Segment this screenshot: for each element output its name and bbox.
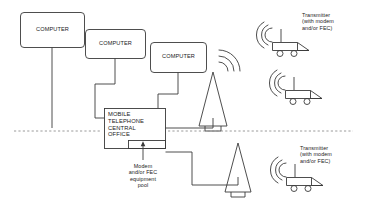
diagram-vector-layer — [0, 0, 367, 220]
truck-1-waves — [256, 22, 272, 48]
feed-lower-tower — [166, 152, 239, 185]
computer-box-1-label: COMPUTER — [20, 26, 85, 33]
truck-2-waves — [269, 70, 285, 96]
truck-3-waves — [270, 157, 286, 183]
wave-arc-3 — [270, 157, 278, 183]
wave-arc-1 — [279, 163, 286, 177]
wave-arc-1 — [265, 28, 272, 42]
central-office-label: MOBILE TELEPHONE CENTRAL OFFICE — [108, 111, 166, 138]
wave-arc-3 — [269, 70, 277, 96]
transmitter-truck-2[interactable] — [269, 70, 322, 105]
lower-tower-group[interactable] — [225, 143, 251, 197]
truck-2-wheel-rear — [304, 99, 310, 105]
tower-feed-lines — [166, 118, 239, 185]
truck-1-wheel-front — [277, 51, 283, 57]
truck-1-body — [273, 43, 310, 51]
computer-box-3-label: COMPUTER — [150, 53, 207, 60]
link-computer-2 — [95, 59, 115, 119]
transmitter-3-label: Transmitter (with modem and/or FEC) — [300, 145, 362, 164]
modem-pool-caption: Modem and/or FEC equipment pool — [113, 163, 173, 189]
diagram-canvas: COMPUTER COMPUTER COMPUTER MOBILE TELEPH… — [0, 0, 367, 220]
truck-2-wheel-front — [290, 99, 296, 105]
modem-pool-box[interactable] — [129, 141, 166, 149]
lower-tower-base — [231, 192, 245, 197]
truck-3-wheel-front — [291, 186, 297, 192]
truck-3-wheel-rear — [305, 186, 311, 192]
truck-3-body — [287, 178, 324, 186]
transmitter-1-label: Transmitter (with modem and/or FEC) — [302, 12, 364, 31]
upper-tower-waves — [219, 50, 240, 71]
link-computer-3 — [158, 73, 178, 109]
upper-tower-mast — [199, 72, 227, 126]
truck-2-body — [286, 91, 323, 99]
wave-arc-1 — [219, 62, 228, 71]
wave-arc-2 — [219, 56, 234, 71]
computer-box-2-label: COMPUTER — [85, 40, 146, 47]
truck-1-wheel-rear — [291, 51, 297, 57]
modem-pool-arrowhead — [141, 141, 146, 146]
wave-arc-3 — [256, 22, 264, 48]
feed-upper-tower — [166, 118, 214, 128]
wave-arc-1 — [278, 76, 285, 90]
